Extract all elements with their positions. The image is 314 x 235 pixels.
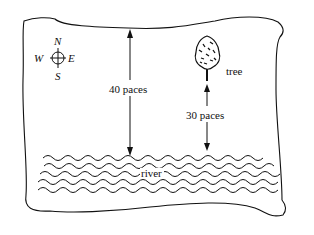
compass-west-label: W (34, 52, 43, 64)
distance-30-paces-label: 30 paces (186, 109, 224, 121)
map-drawing (0, 0, 314, 235)
compass-east-label: E (68, 52, 75, 64)
compass-icon (50, 48, 66, 68)
river-label: river (141, 167, 162, 179)
map-outline (23, 17, 286, 216)
distance-40-paces-label: 40 paces (109, 83, 147, 95)
compass-south-label: S (55, 70, 61, 82)
compass-north-label: N (54, 35, 61, 47)
tree-icon (195, 36, 220, 81)
tree-label: tree (226, 65, 242, 77)
